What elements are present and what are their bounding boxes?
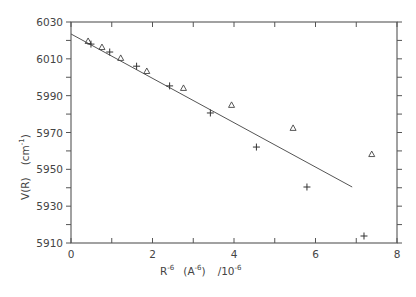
y-tick-label: 5990 — [36, 90, 63, 102]
triangle-marker — [290, 125, 296, 130]
linear-fit-line — [71, 34, 352, 187]
triangle-marker — [229, 102, 235, 108]
plus-marker — [106, 49, 113, 56]
x-tick-label: 4 — [231, 248, 238, 260]
y-tick-label: 6010 — [36, 53, 63, 65]
plus-marker — [303, 184, 310, 191]
x-tick-label: 8 — [394, 248, 401, 260]
plot-border — [71, 22, 397, 243]
triangle-marker — [99, 44, 105, 50]
plus-marker — [360, 233, 367, 240]
y-tick-label: 5950 — [36, 163, 63, 175]
fit-line — [71, 34, 352, 187]
plot-frame — [71, 22, 397, 243]
scatter-chart: 02468 5910593059505970599060106030 R-6(A… — [0, 0, 416, 297]
triangle-marker — [369, 151, 375, 157]
x-tick-label: 2 — [149, 248, 156, 260]
y-axis-label: V(R)(cm-1) — [18, 134, 31, 200]
x-tick-label: 6 — [312, 248, 319, 260]
data-markers — [85, 38, 375, 240]
x-axis-ticks: 02468 — [68, 22, 401, 260]
triangle-marker — [144, 68, 150, 74]
plus-marker — [207, 109, 214, 116]
triangle-marker — [118, 55, 124, 61]
y-axis-ticks: 5910593059505970599060106030 — [36, 16, 402, 249]
triangle-marker — [85, 38, 91, 44]
y-tick-label: 5910 — [36, 237, 63, 249]
plus-marker — [166, 82, 173, 89]
x-axis-label: R-6(A-6)/10-6 — [160, 264, 242, 277]
y-tick-label: 6030 — [36, 16, 63, 28]
y-tick-label: 5970 — [36, 127, 63, 139]
plus-marker — [253, 144, 260, 151]
y-tick-label: 5930 — [36, 200, 63, 212]
x-tick-label: 0 — [68, 248, 75, 260]
triangle-marker — [180, 85, 186, 91]
